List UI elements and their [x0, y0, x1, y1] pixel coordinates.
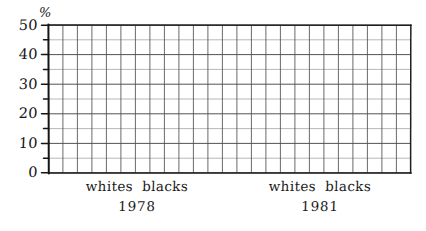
chart-figure: % 50 40 30 20 10 0 whitesblacks 1978 whi…	[0, 0, 426, 231]
bars-layer	[0, 0, 426, 231]
